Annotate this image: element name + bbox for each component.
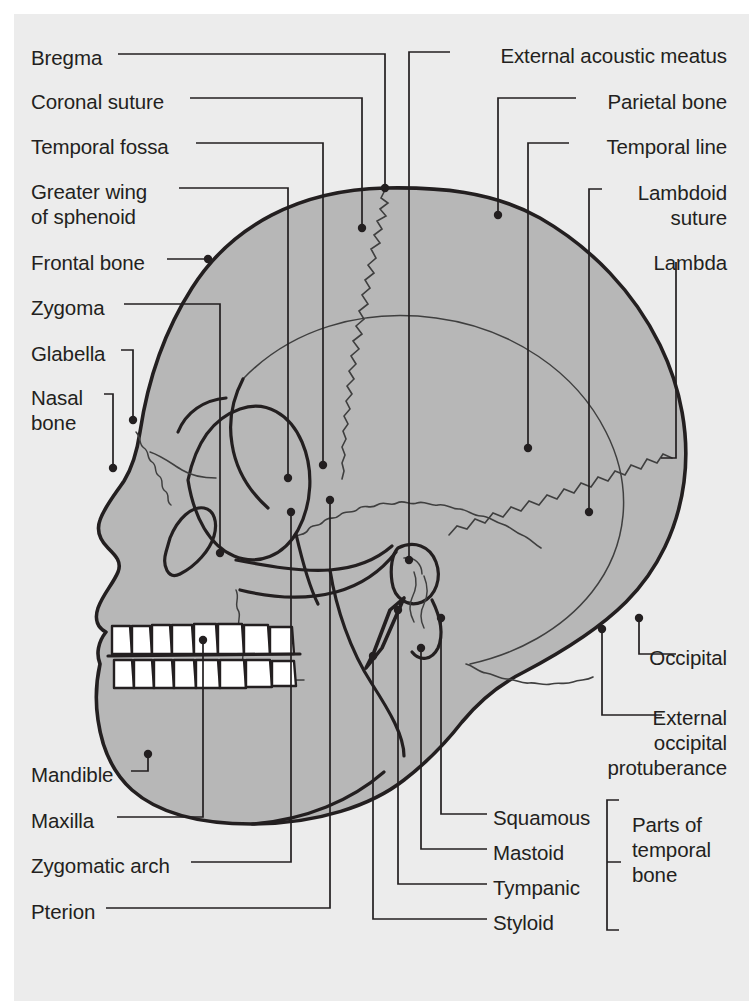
label-coronal-suture: Coronal suture — [31, 89, 164, 114]
dot-glabella — [129, 416, 137, 424]
label-nasal-bone: Nasal bone — [31, 385, 83, 435]
dot-nasal-bone — [109, 464, 117, 472]
label-styloid: Styloid — [493, 910, 554, 935]
leader-parietal-bone — [498, 98, 576, 215]
occlusal-line — [108, 654, 300, 656]
dot-temporal-line — [524, 444, 532, 452]
label-external-acoustic-meatus: External acoustic meatus — [500, 43, 727, 68]
dot-coronal-suture — [358, 224, 366, 232]
label-parts-of-temporal-bone: Parts of temporal bone — [632, 812, 711, 887]
dot-pterion — [326, 496, 334, 504]
dot-lambdoid — [585, 508, 593, 516]
label-parietal-bone: Parietal bone — [607, 89, 727, 114]
leader-nasal-bone — [104, 394, 113, 468]
dot-greater-wing — [284, 474, 292, 482]
label-pterion: Pterion — [31, 899, 95, 924]
label-occipital: Occipital — [649, 645, 727, 670]
dot-mastoid — [417, 644, 425, 652]
leader-eop — [602, 629, 662, 715]
label-bregma: Bregma — [31, 45, 102, 70]
label-temporal-fossa: Temporal fossa — [31, 134, 169, 159]
label-mastoid: Mastoid — [493, 840, 564, 865]
label-squamous: Squamous — [493, 805, 590, 830]
dot-eop — [598, 625, 606, 633]
label-zygoma: Zygoma — [31, 295, 104, 320]
dot-maxilla — [199, 636, 207, 644]
skull-diagram-figure: .bone { fill:#b7b7b7; stroke:#231f20; st… — [0, 0, 749, 1001]
dot-frontal-bone — [204, 255, 212, 263]
dot-occipital — [635, 614, 643, 622]
label-temporal-line: Temporal line — [606, 134, 727, 159]
dot-temporal-fossa — [319, 461, 327, 469]
label-zygomatic-arch: Zygomatic arch — [31, 853, 170, 878]
skull-outline — [96, 188, 686, 824]
label-tympanic: Tympanic — [493, 875, 580, 900]
dot-squamous — [437, 614, 445, 622]
temporal-parts-bracket-path — [607, 800, 621, 930]
leader-glabella — [121, 350, 133, 420]
leader-bregma — [118, 54, 385, 188]
lower-teeth — [114, 660, 296, 688]
dot-eam — [405, 556, 413, 564]
dot-parietal-bone — [494, 211, 502, 219]
dot-bregma — [381, 184, 389, 192]
label-lambda: Lambda — [654, 250, 727, 275]
label-greater-wing-of-sphenoid: Greater wing of sphenoid — [31, 179, 147, 229]
dot-tympanic — [394, 606, 402, 614]
label-maxilla: Maxilla — [31, 808, 94, 833]
label-glabella: Glabella — [31, 341, 105, 366]
label-frontal-bone: Frontal bone — [31, 250, 145, 275]
dot-zygoma — [216, 549, 224, 557]
dot-zygomatic-arch — [287, 508, 295, 516]
label-external-occipital-protuberance: External occipital protuberance — [607, 705, 727, 780]
label-mandible: Mandible — [31, 762, 113, 787]
label-lambdoid-suture: Lambdoid suture — [638, 180, 727, 230]
dot-styloid — [369, 652, 377, 660]
dot-mandible — [144, 750, 152, 758]
